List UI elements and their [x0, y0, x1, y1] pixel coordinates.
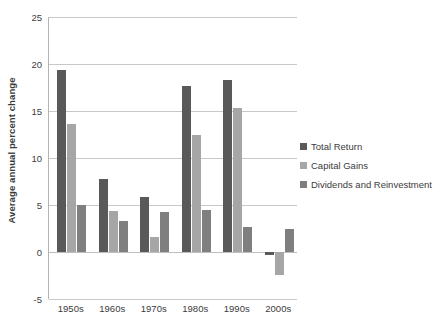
legend-item: Capital Gains	[300, 160, 438, 171]
legend-swatch-icon	[300, 162, 307, 169]
x-tick-label: 1970s	[141, 303, 167, 314]
y-axis-title-text: Average annual percent change	[6, 77, 17, 223]
bar	[77, 205, 86, 252]
bar	[285, 229, 294, 252]
bar-group	[57, 17, 86, 299]
bar	[202, 210, 211, 252]
chart-legend: Total ReturnCapital GainsDividends and R…	[300, 141, 438, 198]
bar	[275, 252, 284, 275]
bar	[119, 221, 128, 252]
plot-area	[48, 17, 297, 299]
bar	[160, 212, 169, 252]
y-tick-label: 0	[37, 247, 42, 258]
x-tick-label: 2000s	[265, 303, 291, 314]
bar	[140, 197, 149, 252]
bars-layer	[49, 17, 297, 299]
bar-group	[140, 17, 169, 299]
bar	[223, 80, 232, 252]
bar	[243, 227, 252, 252]
legend-label: Dividends and Reinvestment	[311, 179, 432, 190]
bar	[109, 211, 118, 252]
legend-label: Total Return	[311, 141, 362, 152]
bar-group	[182, 17, 211, 299]
y-tick-label: -5	[34, 294, 42, 305]
legend-swatch-icon	[300, 181, 307, 188]
bar	[99, 179, 108, 252]
bar-chart: Average annual percent change -505101520…	[0, 0, 440, 331]
x-axis-tick-labels: 1950s1960s1970s1980s1990s2000s	[48, 303, 297, 323]
bar-group	[265, 17, 294, 299]
bar	[192, 135, 201, 252]
bar-group	[99, 17, 128, 299]
bar	[182, 86, 191, 252]
y-tick-label: 20	[31, 59, 42, 70]
legend-label: Capital Gains	[311, 160, 368, 171]
bar	[57, 70, 66, 252]
legend-item: Dividends and Reinvestment	[300, 179, 438, 190]
bar	[67, 124, 76, 252]
y-tick-label: 5	[37, 200, 42, 211]
x-tick-label: 1990s	[224, 303, 250, 314]
bar	[150, 237, 159, 252]
y-axis-tick-labels: -50510152025	[18, 0, 46, 300]
x-tick-label: 1950s	[58, 303, 84, 314]
y-tick-label: 10	[31, 153, 42, 164]
legend-swatch-icon	[300, 143, 307, 150]
gridline--5	[49, 299, 297, 300]
bar-group	[223, 17, 252, 299]
bar	[265, 252, 274, 255]
bar	[233, 108, 242, 252]
x-tick-label: 1980s	[182, 303, 208, 314]
x-tick-label: 1960s	[99, 303, 125, 314]
y-tick-label: 15	[31, 106, 42, 117]
legend-item: Total Return	[300, 141, 438, 152]
y-tick-label: 25	[31, 12, 42, 23]
